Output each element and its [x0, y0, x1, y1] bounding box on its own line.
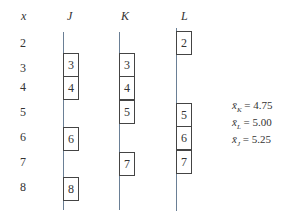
mean-j: x̄J = 5.25: [232, 133, 273, 150]
data-box-k: 5: [119, 100, 135, 124]
data-box-l: 5: [176, 103, 192, 127]
mean-k: x̄K = 4.75: [232, 99, 273, 116]
header-x: x: [21, 9, 26, 24]
data-box-j: 3: [63, 53, 79, 77]
x-value: 5: [20, 105, 26, 120]
data-box-l: 7: [176, 150, 192, 174]
data-box-k: 3: [119, 53, 135, 77]
mean-l: x̄L = 5.00: [232, 116, 273, 133]
data-box-k: 4: [119, 76, 135, 100]
x-value: 4: [20, 80, 26, 95]
means-summary: x̄K = 4.75 x̄L = 5.00 x̄J = 5.25: [232, 99, 273, 151]
x-value: 2: [20, 36, 26, 51]
data-box-l: 2: [176, 31, 192, 55]
header-j: J: [67, 9, 72, 24]
data-box-j: 6: [63, 127, 79, 151]
x-value: 6: [20, 130, 26, 145]
x-value: 7: [20, 155, 26, 170]
data-box-l: 6: [176, 126, 192, 150]
x-value: 8: [20, 180, 26, 195]
data-box-j: 4: [63, 76, 79, 100]
x-value: 3: [20, 61, 26, 76]
header-k: K: [121, 9, 129, 24]
header-l: L: [181, 9, 188, 24]
data-box-k: 7: [119, 152, 135, 176]
data-box-j: 8: [63, 177, 79, 201]
